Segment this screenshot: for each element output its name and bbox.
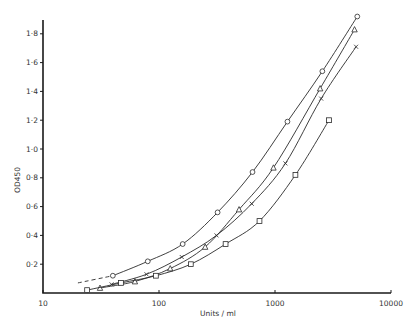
series-triangle [97, 27, 357, 291]
cross-marker-icon [214, 233, 218, 237]
x-tick-label: 1000 [265, 299, 284, 308]
circle-marker-icon [110, 273, 115, 278]
series-square [85, 118, 332, 293]
cross-marker-icon [319, 97, 323, 101]
y-tick-label: 0·4 [26, 231, 38, 240]
circle-marker-icon [250, 170, 255, 175]
cross-marker-icon [144, 272, 148, 276]
triangle-marker-icon [168, 266, 173, 271]
y-tick-label: 1·0 [26, 145, 38, 154]
series-group [78, 14, 360, 292]
square-marker-icon [188, 262, 193, 267]
chart: 0·20·40·60·81·01·21·41·61·81010010001000… [0, 0, 420, 331]
square-marker-icon [293, 173, 298, 178]
square-marker-icon [257, 219, 262, 224]
y-tick-label: 1·4 [26, 87, 38, 96]
y-tick-label: 1·8 [26, 29, 38, 38]
triangle-marker-icon [317, 86, 322, 91]
series-line [100, 29, 355, 287]
series-circle [78, 14, 360, 283]
circle-marker-icon [180, 242, 185, 247]
square-marker-icon [85, 288, 90, 293]
y-tick-label: 0·8 [26, 173, 38, 182]
cross-marker-icon [354, 45, 358, 49]
square-marker-icon [153, 273, 158, 278]
axes [43, 20, 391, 293]
square-marker-icon [327, 118, 332, 123]
y-tick-label: 1·2 [26, 116, 38, 125]
y-tick-label: 0·2 [26, 260, 38, 269]
series-line [112, 47, 357, 285]
axis-lines [43, 20, 391, 293]
x-tick-label: 10 [38, 299, 48, 308]
cross-marker-icon [283, 161, 287, 165]
y-tick-label: 0·6 [26, 202, 38, 211]
circle-marker-icon [320, 69, 325, 74]
circle-marker-icon [285, 119, 290, 124]
cross-marker-icon [250, 202, 254, 206]
y-axis-title: OD450 [13, 167, 22, 193]
y-tick-label: 1·6 [26, 58, 38, 67]
circle-marker-icon [215, 210, 220, 215]
square-marker-icon [119, 281, 124, 286]
dashed-extension-line [78, 276, 113, 283]
x-axis-title: Units / ml [200, 309, 236, 318]
x-tick-label: 10000 [379, 299, 403, 308]
cross-marker-icon [180, 255, 184, 259]
triangle-marker-icon [352, 27, 357, 32]
x-tick-label: 100 [152, 299, 167, 308]
series-cross [110, 45, 359, 287]
series-line [113, 17, 357, 276]
circle-marker-icon [355, 14, 360, 19]
square-marker-icon [223, 242, 228, 247]
series-line [87, 120, 329, 290]
axis-ticks: 0·20·40·60·81·01·21·41·61·81010010001000… [26, 29, 403, 308]
circle-marker-icon [145, 259, 150, 264]
